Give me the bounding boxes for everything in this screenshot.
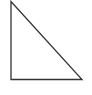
triangle-diagram bbox=[0, 0, 92, 95]
right-triangle-shape bbox=[11, 2, 82, 80]
